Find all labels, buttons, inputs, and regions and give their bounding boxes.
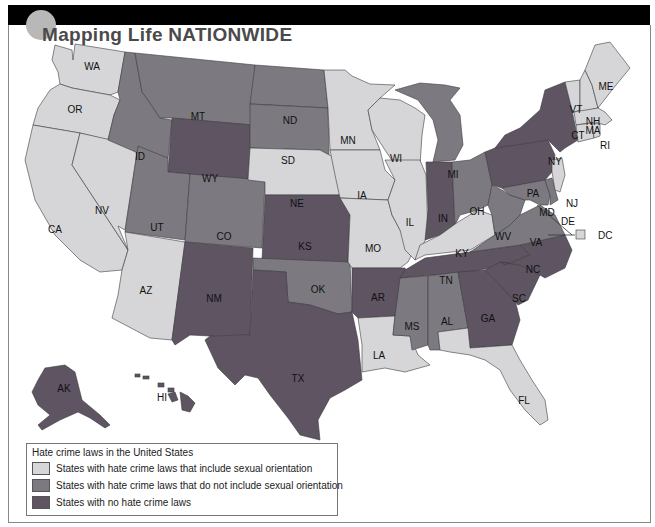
label-az: AZ xyxy=(140,285,153,296)
state-hi-island-1 xyxy=(135,374,140,377)
state-ak[interactable] xyxy=(32,365,110,430)
label-ia: IA xyxy=(357,190,367,201)
label-ms: MS xyxy=(405,321,420,332)
state-hi-big-island[interactable] xyxy=(180,392,195,412)
label-co: CO xyxy=(217,231,232,242)
label-sd: SD xyxy=(281,155,295,166)
legend-swatch-light xyxy=(32,462,50,475)
label-ga: GA xyxy=(481,313,496,324)
label-nh: NH xyxy=(586,116,600,127)
state-sd[interactable] xyxy=(250,104,329,155)
label-fl: FL xyxy=(518,395,530,406)
label-tx: TX xyxy=(292,373,305,384)
label-ri: RI xyxy=(600,140,610,151)
legend-label: States with no hate crime laws xyxy=(56,497,191,508)
legend-item-no-laws: States with no hate crime laws xyxy=(32,495,191,509)
state-hi-island-2 xyxy=(143,376,149,379)
legend-item-not-include: States with hate crime laws that do not … xyxy=(32,478,343,492)
legend: Hate crime laws in the United States Sta… xyxy=(26,443,338,516)
label-pa: PA xyxy=(527,188,540,199)
label-ky: KY xyxy=(455,248,469,259)
label-wi: WI xyxy=(390,153,402,164)
label-va: VA xyxy=(530,237,543,248)
label-tn: TN xyxy=(439,275,452,286)
state-dc-marker[interactable] xyxy=(576,230,585,239)
label-mt: MT xyxy=(191,111,205,122)
label-id: ID xyxy=(135,151,145,162)
label-ne: NE xyxy=(290,198,304,209)
label-ct: CT xyxy=(571,130,584,141)
label-ny: NY xyxy=(548,156,562,167)
label-wy: WY xyxy=(202,173,218,184)
state-wy[interactable] xyxy=(168,118,252,180)
label-or: OR xyxy=(68,104,83,115)
label-dc: DC xyxy=(598,230,612,241)
label-me: ME xyxy=(599,81,614,92)
legend-title: Hate crime laws in the United States xyxy=(32,447,193,458)
label-hi: HI xyxy=(157,392,167,403)
label-sc: SC xyxy=(512,293,526,304)
legend-label: States with hate crime laws that include… xyxy=(56,463,312,474)
label-nc: NC xyxy=(526,264,540,275)
label-ca: CA xyxy=(48,224,62,235)
label-ut: UT xyxy=(150,222,163,233)
label-vt: VT xyxy=(570,104,583,115)
label-nm: NM xyxy=(206,293,222,304)
label-de: DE xyxy=(561,216,575,227)
label-ok: OK xyxy=(311,284,326,295)
legend-swatch-medium xyxy=(32,479,50,492)
label-mn: MN xyxy=(340,135,356,146)
legend-item-include: States with hate crime laws that include… xyxy=(32,461,312,475)
state-ny[interactable] xyxy=(495,82,578,152)
label-nj: NJ xyxy=(566,198,578,209)
label-ak: AK xyxy=(57,383,71,394)
label-md: MD xyxy=(539,207,555,218)
label-nv: NV xyxy=(95,205,109,216)
label-in: IN xyxy=(438,213,448,224)
label-il: IL xyxy=(406,217,415,228)
label-oh: OH xyxy=(470,206,485,217)
label-la: LA xyxy=(373,350,386,361)
label-ar: AR xyxy=(371,292,385,303)
state-hi-island-4 xyxy=(168,388,174,392)
legend-label: States with hate crime laws that do not … xyxy=(56,480,343,491)
label-nd: ND xyxy=(283,115,297,126)
label-ks: KS xyxy=(298,241,312,252)
label-mi: MI xyxy=(447,169,458,180)
state-nd[interactable] xyxy=(250,65,328,108)
state-hi[interactable] xyxy=(168,392,178,402)
legend-swatch-dark xyxy=(32,496,50,509)
label-al: AL xyxy=(441,316,454,327)
state-hi-island-3 xyxy=(158,383,164,387)
label-wv: WV xyxy=(495,231,511,242)
label-wa: WA xyxy=(84,61,100,72)
label-mo: MO xyxy=(365,243,381,254)
